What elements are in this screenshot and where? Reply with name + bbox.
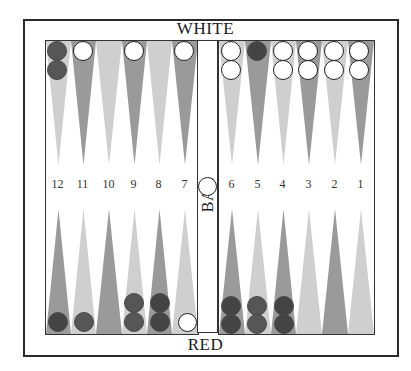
checker-white-point-3[interactable] [298, 41, 318, 61]
checker-red-point-8-bottom[interactable] [150, 312, 170, 332]
checker-red-point-12[interactable] [47, 41, 67, 61]
checker-red-point-4-bottom[interactable] [274, 314, 294, 334]
checker-white-point-6[interactable] [221, 60, 241, 80]
checker-white-point-2[interactable] [324, 41, 344, 61]
white-player-label: WHITE [0, 19, 411, 39]
point-number-5: 5 [245, 177, 270, 192]
checker-white-point-7[interactable] [174, 41, 194, 61]
point-3-bottom [296, 209, 322, 334]
point-number-2: 2 [322, 177, 347, 192]
point-number-10: 10 [96, 177, 121, 192]
checker-white-on-bar[interactable] [198, 177, 217, 196]
checker-red-point-5-bottom[interactable] [247, 314, 267, 334]
checker-white-point-4[interactable] [273, 41, 293, 61]
checker-red-point-9-bottom[interactable] [124, 293, 144, 313]
checker-white-point-6[interactable] [221, 41, 241, 61]
point-number-9: 9 [121, 177, 146, 192]
checker-red-point-8-bottom[interactable] [150, 293, 170, 313]
point-number-3: 3 [296, 177, 321, 192]
checker-white-point-3[interactable] [298, 60, 318, 80]
point-2-bottom [322, 209, 348, 334]
point-number-8: 8 [146, 177, 171, 192]
point-number-11: 11 [70, 177, 95, 192]
point-number-4: 4 [270, 177, 295, 192]
checker-red-point-6-bottom[interactable] [221, 296, 241, 316]
point-1-bottom [348, 209, 374, 334]
checker-white-point-11[interactable] [73, 41, 93, 61]
point-number-1: 1 [348, 177, 373, 192]
checker-red-point-5-bottom[interactable] [247, 296, 267, 316]
point-number-6: 6 [219, 177, 244, 192]
point-10-top [96, 41, 122, 165]
point-number-12: 12 [45, 177, 70, 192]
red-player-label: RED [0, 335, 411, 355]
checker-red-point-12[interactable] [47, 60, 67, 80]
checker-white-point-4[interactable] [273, 60, 293, 80]
checker-white-point-7-bottom[interactable] [178, 313, 197, 332]
checker-white-point-1[interactable] [349, 41, 369, 61]
point-10-bottom [96, 209, 122, 334]
checker-red-point-4-bottom[interactable] [274, 296, 294, 316]
checker-red-point-11-bottom[interactable] [74, 312, 94, 332]
checker-white-point-1[interactable] [349, 60, 369, 80]
checker-red-point-12-bottom[interactable] [48, 312, 68, 332]
checker-white-point-9[interactable] [124, 41, 144, 61]
checker-red-point-5[interactable] [247, 41, 267, 61]
point-number-7: 7 [172, 177, 197, 192]
point-8-top [147, 41, 172, 165]
checker-white-point-2[interactable] [324, 60, 344, 80]
checker-red-point-6-bottom[interactable] [221, 314, 241, 334]
checker-red-point-9-bottom[interactable] [124, 312, 144, 332]
